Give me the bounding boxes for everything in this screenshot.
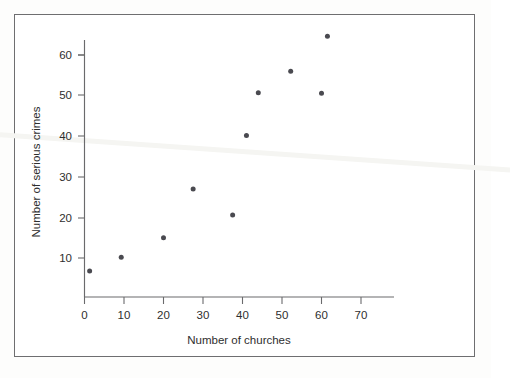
x-tick-label-50: 50 — [276, 309, 289, 321]
x-tick-label-20: 20 — [157, 309, 170, 321]
data-points-layer — [87, 34, 330, 274]
x-axis-ticks — [85, 297, 362, 304]
x-axis-tick-labels: 0 10 20 30 40 50 60 70 — [81, 309, 367, 321]
data-point — [119, 255, 124, 260]
axes-group — [85, 40, 395, 297]
data-point — [319, 91, 324, 96]
x-axis-title: Number of churches — [187, 334, 291, 346]
y-tick-label-10: 10 — [59, 252, 72, 264]
x-tick-label-10: 10 — [118, 309, 131, 321]
data-point — [325, 34, 330, 39]
y-axis-ticks — [78, 55, 85, 258]
data-point — [244, 133, 249, 138]
x-tick-label-30: 30 — [197, 309, 210, 321]
y-tick-label-60: 60 — [59, 49, 72, 61]
y-axis-tick-labels: 60 50 40 30 20 10 — [59, 49, 72, 264]
y-axis-title: Number of serious crimes — [30, 106, 42, 237]
y-tick-label-30: 30 — [59, 171, 72, 183]
y-tick-label-50: 50 — [59, 89, 72, 101]
x-tick-label-60: 60 — [315, 309, 328, 321]
x-tick-label-40: 40 — [236, 309, 249, 321]
y-tick-label-40: 40 — [59, 130, 72, 142]
x-tick-label-70: 70 — [355, 309, 368, 321]
data-point — [161, 235, 166, 240]
x-tick-label-0: 0 — [81, 309, 87, 321]
data-point — [87, 268, 92, 273]
data-point — [230, 212, 235, 217]
data-point — [288, 69, 293, 74]
y-tick-label-20: 20 — [59, 212, 72, 224]
data-point — [191, 186, 196, 191]
data-point — [256, 90, 261, 95]
